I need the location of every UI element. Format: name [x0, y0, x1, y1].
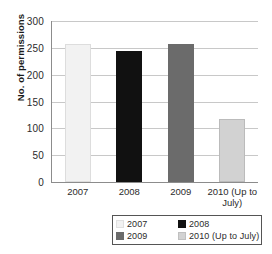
y-tick-label: 150	[27, 96, 44, 107]
y-axis-tick-labels: 050100150200250300	[0, 21, 48, 182]
bar-2007	[65, 44, 91, 182]
legend-swatch-icon	[178, 232, 186, 240]
legend-row: 20092010 (Up to July)	[116, 230, 258, 242]
y-tick-label: 300	[27, 16, 44, 27]
legend-item: 2010 (Up to July)	[178, 231, 258, 241]
legend-item: 2009	[116, 231, 178, 241]
bar-2008	[116, 51, 142, 182]
bar-chart: No. of permissions 050100150200250300 20…	[0, 0, 272, 254]
y-tick-label: 200	[27, 69, 44, 80]
y-tick-label: 0	[38, 177, 44, 188]
x-tick-label: 2008	[104, 186, 156, 197]
y-tick-label: 100	[27, 123, 44, 134]
chart-legend: 20072008 20092010 (Up to July)	[112, 215, 262, 245]
legend-label: 2007	[127, 219, 147, 229]
x-tick-label: 2010 (Up to July)	[207, 186, 259, 208]
bars	[52, 21, 258, 182]
bar-2009	[168, 44, 194, 182]
plot-area	[52, 21, 258, 182]
legend-label: 2010 (Up to July)	[189, 231, 259, 241]
legend-label: 2009	[127, 231, 147, 241]
legend-row: 20072008	[116, 218, 258, 230]
x-tick-label: 2009	[155, 186, 207, 197]
y-tick-label: 250	[27, 42, 44, 53]
legend-item: 2007	[116, 219, 178, 229]
x-axis-tick-labels: 2007200820092010 (Up to July)	[52, 186, 258, 216]
legend-label: 2008	[189, 219, 209, 229]
legend-swatch-icon	[116, 232, 124, 240]
y-tick-label: 50	[32, 150, 44, 161]
bar-2010-up-to-july-	[219, 119, 245, 182]
legend-swatch-icon	[178, 220, 186, 228]
axis-baseline	[52, 182, 258, 183]
legend-swatch-icon	[116, 220, 124, 228]
legend-item: 2008	[178, 219, 248, 229]
x-tick-label: 2007	[52, 186, 104, 197]
